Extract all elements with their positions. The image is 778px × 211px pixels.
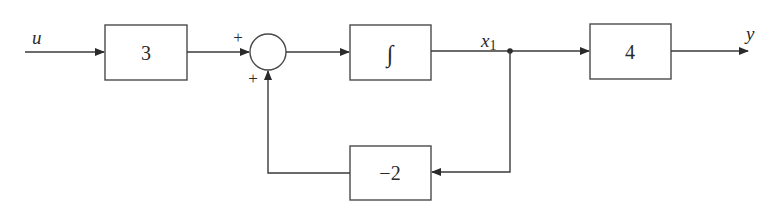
integrator-block: ∫	[350, 25, 431, 80]
feedback-branch-arrow	[432, 51, 510, 172]
feedback-return-arrow	[268, 71, 350, 173]
gain-block-4-label: 4	[625, 41, 635, 63]
sum-top-sign: +	[233, 28, 243, 47]
sum-bottom-sign: +	[248, 69, 258, 88]
gain-block-3: 3	[105, 25, 187, 80]
gain-block-4: 4	[590, 24, 671, 79]
summing-junction	[250, 34, 286, 70]
feedback-gain-block: −2	[350, 146, 431, 200]
gain-block-3-label: 3	[141, 42, 151, 64]
input-label: u	[32, 27, 42, 48]
feedback-gain-label: −2	[379, 162, 400, 184]
block-diagram: u 3 + + ∫ x1 4 y −2	[0, 0, 778, 211]
output-label: y	[744, 23, 755, 44]
state-label: x1	[480, 30, 496, 53]
integrator-label: ∫	[385, 41, 395, 69]
